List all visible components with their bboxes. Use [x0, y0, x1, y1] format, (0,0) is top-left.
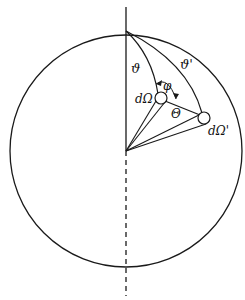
sphere-diagram: ϑ ϑ' φ Θ dΩ dΩ' — [0, 0, 245, 300]
label-theta-prime: ϑ' — [180, 57, 193, 72]
label-phi: φ — [163, 79, 172, 93]
angle-phi-arrowhead-right — [173, 93, 179, 99]
solid-angle-element — [155, 92, 167, 104]
solid-angle-element-prime — [198, 112, 210, 124]
cone-d-omega-right — [126, 102, 165, 151]
label-big-theta: Θ — [171, 107, 181, 121]
cone-d-omega-prime-bottom — [126, 124, 206, 151]
label-d-omega: dΩ — [135, 92, 153, 106]
label-theta: ϑ — [131, 61, 140, 76]
label-d-omega-prime: dΩ' — [208, 124, 229, 138]
